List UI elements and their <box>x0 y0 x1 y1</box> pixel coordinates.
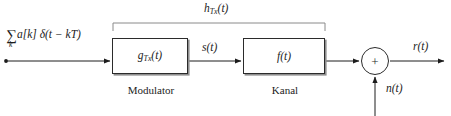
sigma-index-label: k <box>9 41 12 49</box>
bracket-label-tail: (t) <box>218 2 229 14</box>
block-modulator[interactable]: gTx(t) <box>112 38 188 74</box>
bracket-label-subscript: Tx <box>210 7 218 16</box>
block-channel-label-tail: (t) <box>280 50 291 62</box>
block-modulator-label-tail: (t) <box>151 49 162 61</box>
signal-label-s-tail: (t) <box>206 41 217 53</box>
block-channel[interactable]: f(t) <box>243 38 325 74</box>
input-signal-expression: ∑ k a[k] δ(t − kT) <box>6 28 81 48</box>
input-terminal-dot <box>4 59 8 63</box>
caption-channel: Kanal <box>244 85 326 96</box>
signal-label-n: n(t) <box>386 83 403 95</box>
bracket-label-h-tx: hTx(t) <box>204 3 228 16</box>
signal-label-r-tail: (t) <box>417 40 428 52</box>
caption-modulator: Modulator <box>113 85 189 96</box>
signal-label-n-tail: (t) <box>392 82 403 94</box>
signal-label-s: s(t) <box>202 42 217 54</box>
grouping-bracket <box>113 23 325 31</box>
summation-sigma-icon: ∑ k <box>6 28 17 48</box>
input-expression-body: a[k] δ(t − kT) <box>17 29 81 41</box>
block-diagram: ∑ k a[k] δ(t − kT) hTx(t) gTx(t) f(t) Mo… <box>0 0 451 116</box>
plus-operator-icon: + <box>361 47 389 75</box>
signal-label-r: r(t) <box>413 41 428 53</box>
block-modulator-label: gTx(t) <box>138 49 162 63</box>
block-channel-label: f(t) <box>277 50 291 62</box>
